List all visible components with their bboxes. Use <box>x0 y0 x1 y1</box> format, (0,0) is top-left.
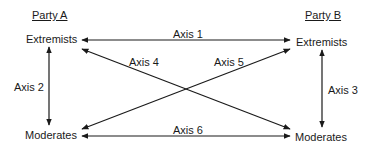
party-a-moderates-node: Moderates <box>25 129 77 142</box>
party-a-title: Party A <box>32 9 67 22</box>
party-b-extremists-node: Extremists <box>296 36 347 49</box>
axis-2-label: Axis 2 <box>14 81 44 94</box>
party-b-title: Party B <box>305 9 341 22</box>
axis-5-label: Axis 5 <box>214 56 244 69</box>
axis-6-label: Axis 6 <box>173 124 203 137</box>
axis-3-label: Axis 3 <box>328 84 358 97</box>
axis-4-label: Axis 4 <box>129 56 159 69</box>
party-b-moderates-node: Moderates <box>295 131 347 144</box>
axis-1-label: Axis 1 <box>173 28 203 41</box>
party-a-extremists-node: Extremists <box>26 33 77 46</box>
